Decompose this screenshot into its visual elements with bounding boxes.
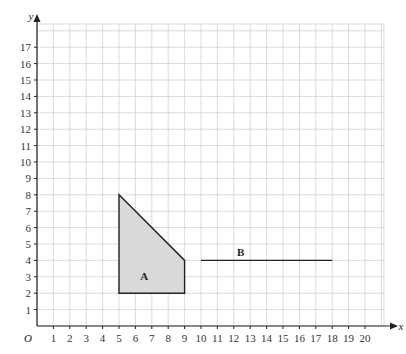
x-tick-label: 17 (310, 332, 322, 344)
y-tick-label: 2 (26, 287, 32, 299)
x-tick-label: 1 (51, 332, 57, 344)
x-tick-label: 14 (261, 332, 273, 344)
y-tick-label: 17 (20, 41, 32, 53)
x-axis-arrow-icon (390, 323, 398, 330)
x-tick-label: 3 (83, 332, 89, 344)
x-tick-label: 2 (67, 332, 73, 344)
y-tick-label: 12 (20, 123, 31, 135)
y-tick-label: 6 (26, 222, 32, 234)
x-tick-label: 5 (116, 332, 122, 344)
y-axis-label: y (28, 10, 34, 22)
x-tick-label: 15 (278, 332, 290, 344)
x-tick-label: 11 (212, 332, 223, 344)
y-axis-arrow-icon (34, 14, 41, 22)
y-tick-label: 14 (20, 90, 32, 102)
y-tick-label: 4 (26, 254, 32, 266)
x-tick-label: 18 (327, 332, 339, 344)
x-tick-label: 7 (149, 332, 155, 344)
coordinate-grid: AB 1234567891011121314151617181920123456… (0, 0, 406, 354)
grid-lines (37, 24, 384, 326)
shape-label-B: B (237, 246, 245, 258)
x-tick-label: 10 (196, 332, 208, 344)
y-tick-label: 11 (20, 140, 31, 152)
x-tick-label: 4 (100, 332, 106, 344)
x-tick-label: 20 (360, 332, 372, 344)
x-axis-label: x (398, 320, 404, 332)
y-tick-label: 3 (26, 271, 32, 283)
x-tick-label: 9 (182, 332, 188, 344)
y-tick-label: 13 (20, 107, 32, 119)
y-tick-label: 10 (20, 156, 32, 168)
shape-label-A: A (140, 270, 148, 282)
y-tick-label: 15 (20, 74, 32, 86)
axes (34, 14, 399, 330)
y-tick-label: 8 (26, 189, 32, 201)
y-tick-label: 16 (20, 58, 32, 70)
x-tick-label: 8 (165, 332, 171, 344)
x-tick-label: 16 (294, 332, 306, 344)
x-tick-label: 19 (343, 332, 355, 344)
tick-labels: 1234567891011121314151617181920123456789… (20, 10, 404, 344)
y-tick-label: 7 (26, 205, 32, 217)
origin-label: O (24, 332, 32, 344)
x-tick-label: 6 (133, 332, 139, 344)
y-tick-label: 9 (26, 172, 32, 184)
y-tick-label: 1 (26, 304, 32, 316)
y-tick-label: 5 (26, 238, 32, 250)
x-tick-label: 13 (245, 332, 257, 344)
x-tick-label: 12 (228, 332, 239, 344)
